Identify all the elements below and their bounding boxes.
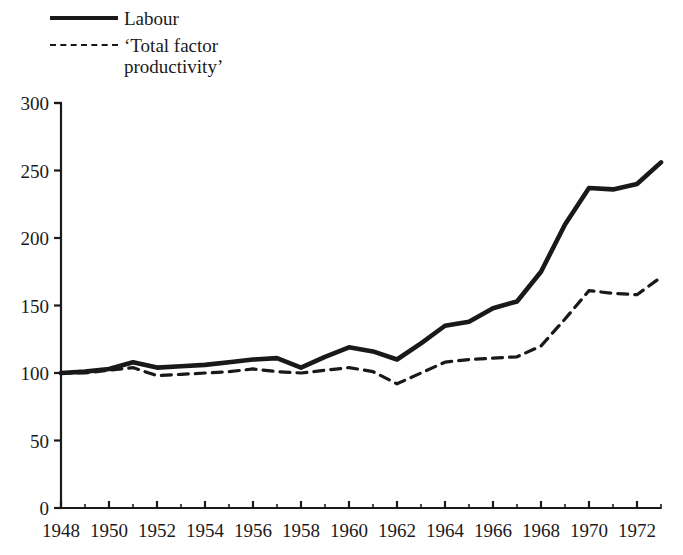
y-tick-label: 200 <box>21 228 50 249</box>
y-tick-label: 150 <box>21 296 50 317</box>
x-tick-label: 1962 <box>378 520 416 541</box>
y-axis-ticks: 050100150200250300 <box>21 93 63 519</box>
series-line-labour <box>61 162 661 373</box>
y-tick-label: 250 <box>21 161 50 182</box>
x-tick-label: 1964 <box>426 520 465 541</box>
chart-figure: Labour ‘Total factor productivity’ 05010… <box>0 0 683 555</box>
x-tick-label: 1960 <box>330 520 368 541</box>
y-tick-label: 50 <box>30 431 49 452</box>
y-tick-label: 300 <box>21 93 50 114</box>
y-tick-label: 100 <box>21 363 50 384</box>
x-tick-label: 1948 <box>42 520 80 541</box>
x-tick-label: 1958 <box>282 520 320 541</box>
chart-series-layer <box>61 162 661 383</box>
y-tick-label: 0 <box>40 498 50 519</box>
x-tick-label: 1954 <box>186 520 225 541</box>
x-tick-label: 1972 <box>618 520 656 541</box>
x-tick-label: 1966 <box>474 520 512 541</box>
x-tick-label: 1968 <box>522 520 560 541</box>
x-tick-label: 1952 <box>138 520 176 541</box>
x-tick-label: 1970 <box>570 520 608 541</box>
chart-plot-area: 050100150200250300 194819501952195419561… <box>0 0 683 555</box>
x-tick-label: 1956 <box>234 520 272 541</box>
x-tick-label: 1950 <box>90 520 128 541</box>
